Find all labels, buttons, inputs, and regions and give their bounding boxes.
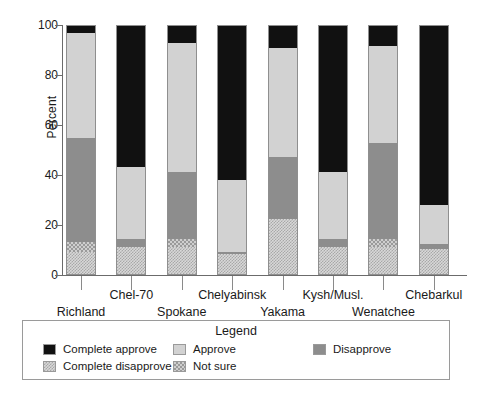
stacked-bar-chart: Percent 100806040200 RichlandChel-70Spok… — [0, 0, 480, 310]
bar-segment-complete-disapprove — [369, 247, 397, 274]
legend-title: Legend — [23, 324, 449, 338]
bar-spokane[interactable] — [167, 25, 197, 275]
bar-group — [0, 0, 480, 310]
bar-segment-complete-approve — [269, 26, 297, 48]
x-label-kysh-musl: Kysh/Musl. — [302, 288, 363, 302]
bar-segment-approve — [420, 205, 448, 245]
bar-segment-complete-disapprove — [117, 247, 145, 274]
y-tick-mark-0 — [55, 275, 62, 276]
bar-chelyabinsk[interactable] — [217, 25, 247, 275]
approve-swatch — [173, 344, 186, 355]
bar-segment-approve — [218, 180, 246, 252]
bar-segment-complete-approve — [319, 26, 347, 172]
x-tick-mark-0 — [81, 276, 82, 290]
bar-segment-approve — [168, 43, 196, 172]
bar-segment-complete-disapprove — [269, 219, 297, 274]
x-label-chel-70: Chel-70 — [110, 288, 154, 302]
bar-segment-disapprove — [117, 239, 145, 246]
x-tick-mark-5 — [333, 276, 334, 290]
y-tick-mark-40 — [55, 175, 62, 176]
legend-item-complete-approve[interactable]: Complete approve — [43, 343, 157, 355]
y-tick-mark-80 — [55, 75, 62, 76]
legend-item-disapprove[interactable]: Disapprove — [313, 343, 391, 355]
x-label-yakama: Yakama — [260, 305, 305, 319]
bar-segment-not-sure — [67, 242, 95, 252]
bar-segment-complete-approve — [67, 26, 95, 33]
bar-segment-approve — [117, 167, 145, 239]
x-axis-tick-labels: RichlandChel-70SpokaneChelyabinskYakamaK… — [0, 288, 480, 324]
legend-item-label: Approve — [193, 343, 236, 355]
y-tick-mark-60 — [55, 125, 62, 126]
bar-segment-complete-approve — [168, 26, 196, 43]
bar-segment-disapprove — [369, 143, 397, 240]
bar-segment-complete-approve — [117, 26, 145, 167]
bar-segment-complete-approve — [218, 26, 246, 180]
bar-segment-complete-disapprove — [168, 247, 196, 274]
bar-segment-complete-disapprove — [218, 254, 246, 274]
bar-yakama[interactable] — [268, 25, 298, 275]
legend-item-complete-disapprove[interactable]: Complete disapprove — [43, 360, 172, 372]
x-tick-mark-2 — [182, 276, 183, 290]
x-tick-mark-6 — [383, 276, 384, 290]
complete-approve-swatch — [43, 344, 56, 355]
bar-segment-approve — [67, 33, 95, 137]
bar-segment-disapprove — [319, 239, 347, 246]
bar-segment-approve — [369, 46, 397, 143]
x-label-wenatchee: Wenatchee — [352, 305, 415, 319]
not-sure-swatch — [173, 361, 186, 372]
bar-segment-disapprove — [67, 138, 95, 242]
x-tick-mark-7 — [434, 276, 435, 290]
complete-disapprove-swatch — [43, 361, 56, 372]
bar-segment-approve — [319, 172, 347, 239]
legend-item-label: Disapprove — [333, 343, 391, 355]
x-label-richland: Richland — [57, 305, 106, 319]
x-label-spokane: Spokane — [157, 305, 206, 319]
bar-richland[interactable] — [66, 25, 96, 275]
legend-item-label: Not sure — [193, 360, 236, 372]
y-tick-mark-20 — [55, 225, 62, 226]
bar-segment-disapprove — [269, 157, 297, 219]
legend-item-approve[interactable]: Approve — [173, 343, 236, 355]
bar-segment-complete-disapprove — [67, 252, 95, 274]
bar-segment-complete-disapprove — [319, 247, 347, 274]
bar-segment-disapprove — [168, 172, 196, 239]
bar-segment-not-sure — [369, 239, 397, 246]
bar-wenatchee[interactable] — [368, 25, 398, 275]
bar-segment-complete-disapprove — [420, 249, 448, 274]
bar-segment-complete-approve — [420, 26, 448, 205]
legend-item-label: Complete approve — [63, 343, 157, 355]
bar-segment-complete-approve — [369, 26, 397, 46]
x-tick-mark-1 — [131, 276, 132, 290]
x-tick-mark-3 — [232, 276, 233, 290]
x-label-chebarkul: Chebarkul — [405, 288, 462, 302]
legend-item-label: Complete disapprove — [63, 360, 172, 372]
bar-segment-not-sure — [168, 239, 196, 246]
disapprove-swatch — [313, 344, 326, 355]
x-label-chelyabinsk: Chelyabinsk — [198, 288, 266, 302]
x-tick-mark-4 — [283, 276, 284, 290]
bar-chebarkul[interactable] — [419, 25, 449, 275]
bar-kysh-musl[interactable] — [318, 25, 348, 275]
bar-segment-approve — [269, 48, 297, 157]
legend: Legend Complete approveComplete disappro… — [22, 320, 450, 380]
legend-item-not-sure[interactable]: Not sure — [173, 360, 236, 372]
y-tick-mark-100 — [55, 25, 62, 26]
bar-chel-70[interactable] — [116, 25, 146, 275]
